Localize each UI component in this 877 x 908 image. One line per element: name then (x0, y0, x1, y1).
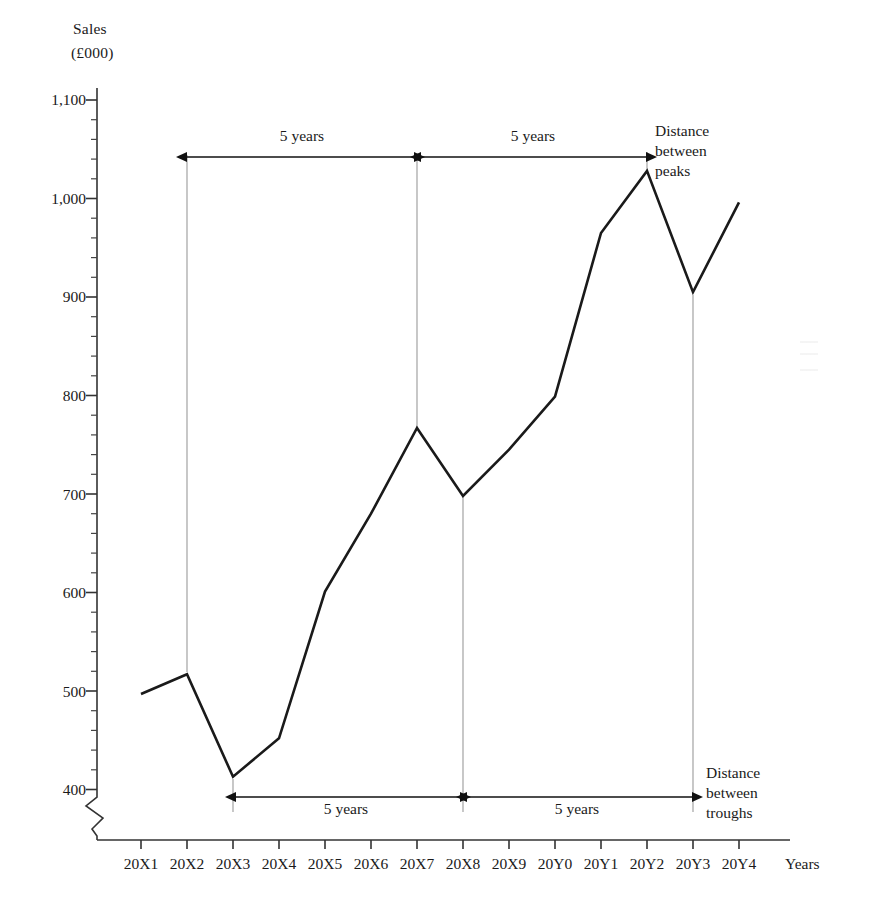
chart-figure: Sales (£000) 1,100 1,000 900 800 700 600… (0, 0, 877, 908)
y-axis (86, 88, 103, 840)
x-ticks (141, 840, 739, 849)
droplines (187, 152, 693, 812)
y-minor-ticks (91, 120, 97, 770)
axis-break-symbol (86, 791, 103, 840)
y-major-ticks (86, 100, 97, 790)
sales-line-series (141, 171, 739, 777)
plot-area (0, 0, 877, 908)
x-axis (97, 840, 790, 849)
